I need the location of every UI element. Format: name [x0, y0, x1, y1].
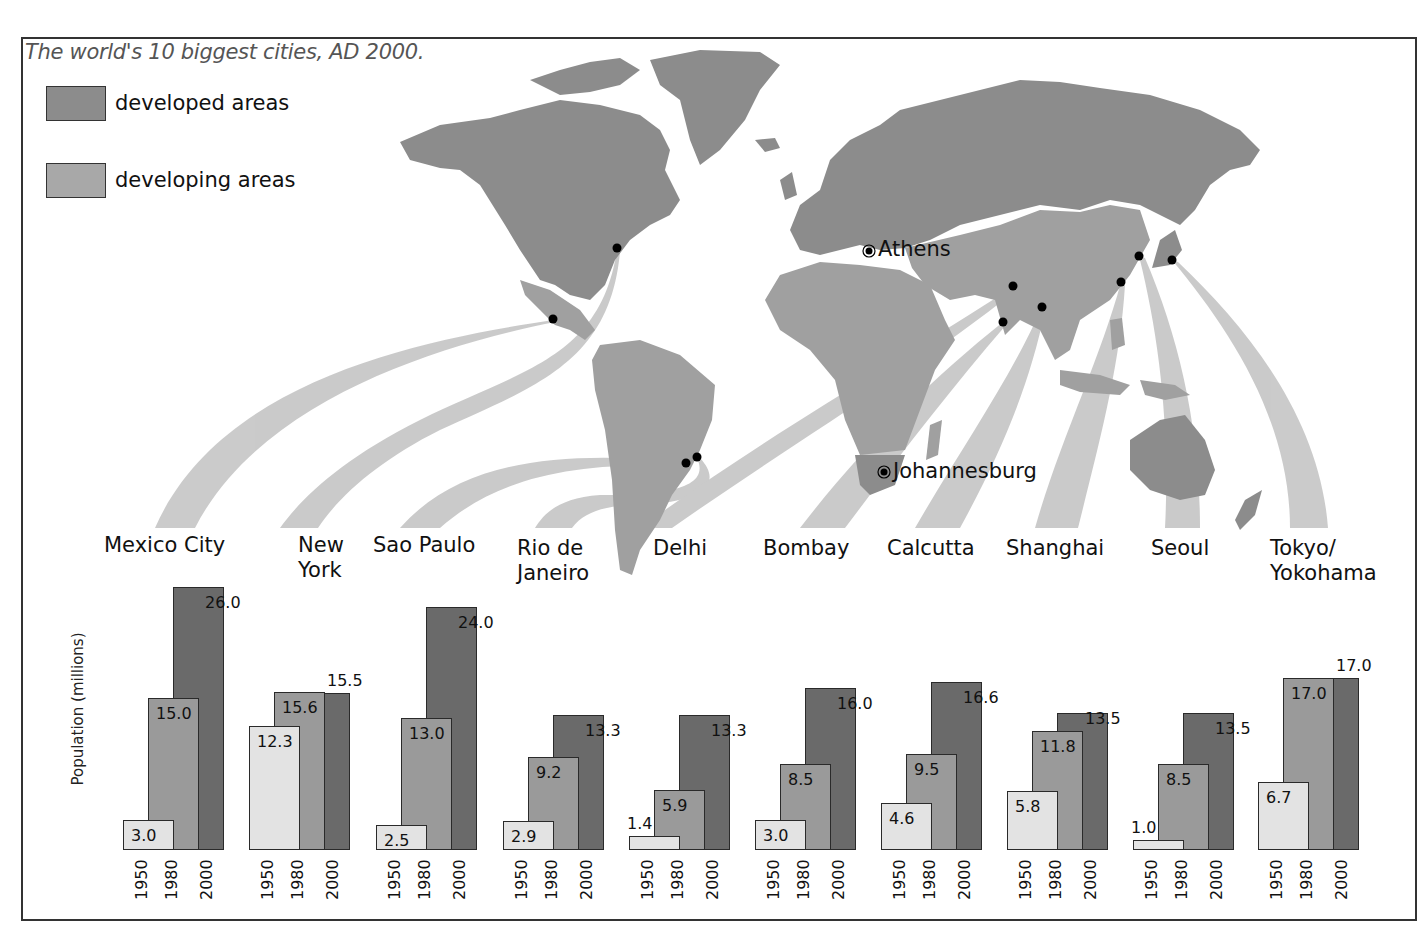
year-tick-label: 1980 [415, 859, 434, 900]
dot-sao-paulo [682, 459, 691, 468]
value-label: 2.5 [384, 831, 409, 850]
city-label: Calcutta [887, 536, 975, 561]
city-label-line1: Rio de [517, 536, 589, 561]
value-label: 5.8 [1015, 797, 1040, 816]
city-label-line1: Bombay [763, 536, 849, 561]
value-label: 5.9 [662, 796, 687, 815]
johannesburg-label: Johannesburg [893, 459, 1037, 483]
year-tick-label: 1950 [764, 859, 783, 900]
value-label: 12.3 [257, 732, 293, 751]
value-label: 16.0 [837, 694, 873, 713]
value-label: 17.0 [1291, 684, 1327, 703]
city-label: Rio deJaneiro [517, 536, 589, 586]
year-tick-label: 1950 [638, 859, 657, 900]
year-tick-label: 2000 [577, 859, 596, 900]
city-label-line1: Delhi [653, 536, 707, 561]
year-tick-label: 1980 [920, 859, 939, 900]
city-label: Bombay [763, 536, 849, 561]
city-label: Seoul [1151, 536, 1209, 561]
dot-delhi [1009, 282, 1018, 291]
year-tick-label: 2000 [1207, 859, 1226, 900]
value-label: 13.5 [1085, 709, 1121, 728]
year-tick-label: 1980 [1172, 859, 1191, 900]
year-tick-label: 2000 [829, 859, 848, 900]
dot-bombay [999, 318, 1008, 327]
value-label: 1.0 [1131, 818, 1156, 837]
dot-rio [693, 453, 702, 462]
value-label: 26.0 [205, 593, 241, 612]
dot-calcutta [1038, 303, 1047, 312]
value-label: 2.9 [511, 827, 536, 846]
value-label: 11.8 [1040, 737, 1076, 756]
dot-shanghai [1117, 278, 1126, 287]
year-tick-label: 1950 [1142, 859, 1161, 900]
year-tick-label: 1950 [385, 859, 404, 900]
year-tick-label: 1980 [542, 859, 561, 900]
value-label: 3.0 [131, 826, 156, 845]
city-label-line1: Seoul [1151, 536, 1209, 561]
value-label: 16.6 [963, 688, 999, 707]
city-label-line1: Mexico City [104, 533, 225, 558]
city-label: Tokyo/Yokohama [1270, 536, 1377, 586]
city-label-line1: Shanghai [1006, 536, 1104, 561]
year-tick-label: 1950 [258, 859, 277, 900]
value-label: 6.7 [1266, 788, 1291, 807]
city-label-line2: Janeiro [517, 561, 589, 586]
value-label: 13.3 [711, 721, 747, 740]
value-label: 8.5 [788, 770, 813, 789]
city-label-line2: Yokohama [1270, 561, 1377, 586]
city-label-line1: Tokyo/ [1270, 536, 1377, 561]
city-label-line1: Calcutta [887, 536, 975, 561]
city-label: Shanghai [1006, 536, 1104, 561]
city-label-line1: Sao Paulo [373, 533, 475, 558]
value-label: 1.4 [627, 814, 652, 833]
city-label: Delhi [653, 536, 707, 561]
value-label: 17.0 [1336, 656, 1372, 675]
city-label: NewYork [298, 533, 344, 583]
year-tick-label: 1950 [890, 859, 909, 900]
athens-label: Athens [878, 237, 951, 261]
value-label: 13.3 [585, 721, 621, 740]
dot-mexico-city [549, 315, 558, 324]
year-tick-label: 1980 [288, 859, 307, 900]
value-label: 13.5 [1215, 719, 1251, 738]
year-tick-label: 2000 [1081, 859, 1100, 900]
bar-1950 [1133, 840, 1184, 850]
year-tick-label: 1980 [1297, 859, 1316, 900]
city-label: Mexico City [104, 533, 225, 558]
year-tick-label: 1950 [1016, 859, 1035, 900]
value-label: 13.0 [409, 724, 445, 743]
year-tick-label: 1980 [794, 859, 813, 900]
dot-seoul [1135, 252, 1144, 261]
year-tick-label: 1950 [132, 859, 151, 900]
value-label: 9.2 [536, 763, 561, 782]
city-label: Sao Paulo [373, 533, 475, 558]
value-label: 4.6 [889, 809, 914, 828]
value-label: 9.5 [914, 760, 939, 779]
dot-new-york [613, 244, 622, 253]
year-tick-label: 2000 [1332, 859, 1351, 900]
value-label: 15.5 [327, 671, 363, 690]
value-label: 24.0 [458, 613, 494, 632]
city-label-line1: New [298, 533, 344, 558]
year-tick-label: 1950 [512, 859, 531, 900]
year-tick-label: 1950 [1267, 859, 1286, 900]
year-tick-label: 1980 [1046, 859, 1065, 900]
year-tick-label: 2000 [323, 859, 342, 900]
year-tick-label: 1980 [668, 859, 687, 900]
year-tick-label: 2000 [703, 859, 722, 900]
value-label: 8.5 [1166, 770, 1191, 789]
year-tick-label: 1980 [162, 859, 181, 900]
developing-areas [520, 205, 1190, 575]
y-axis-label: Population (millions) [69, 609, 87, 809]
dot-tokyo [1168, 256, 1177, 265]
bar-1950 [629, 836, 680, 850]
city-label-line2: York [298, 558, 344, 583]
value-label: 3.0 [763, 826, 788, 845]
year-tick-label: 2000 [955, 859, 974, 900]
year-tick-label: 2000 [197, 859, 216, 900]
value-label: 15.0 [156, 704, 192, 723]
value-label: 15.6 [282, 698, 318, 717]
year-tick-label: 2000 [450, 859, 469, 900]
